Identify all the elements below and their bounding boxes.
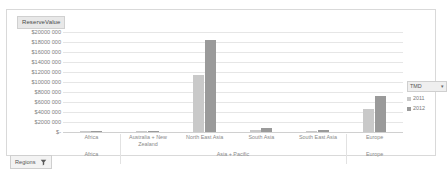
plot-area: [63, 32, 403, 132]
category-group-label: Asia + Pacific: [120, 151, 347, 158]
bar-cluster: [176, 32, 233, 132]
bar[interactable]: [318, 130, 329, 132]
y-axis-tick-label: $10000 000: [31, 79, 61, 85]
legend-item-label: 2012: [413, 105, 425, 112]
bar-cluster: [233, 32, 290, 132]
bar-cluster: [290, 32, 347, 132]
bar[interactable]: [205, 40, 216, 132]
y-axis-tick-label: $6000 000: [35, 99, 61, 105]
category-axis-level1: AfricaAustralia + New ZealandNorth East …: [63, 134, 403, 150]
y-axis-tick-label: $18000 000: [31, 39, 61, 45]
bar-cluster: [346, 32, 403, 132]
bar[interactable]: [363, 109, 374, 132]
y-axis-tick-label: $20000 000: [31, 29, 61, 35]
legend: TMD ▾ 20112012: [407, 81, 447, 112]
value-axis-title: ReserveValue: [17, 16, 65, 29]
legend-item[interactable]: 2011: [407, 95, 447, 102]
bar[interactable]: [136, 131, 147, 132]
chevron-down-icon: ▾: [441, 83, 444, 90]
legend-item[interactable]: 2012: [407, 105, 447, 112]
bar[interactable]: [91, 131, 102, 132]
y-axis-tick-label: $12000 000: [31, 69, 61, 75]
category-group-separator: [346, 134, 347, 164]
filter-funnel-icon[interactable]: [40, 159, 47, 166]
y-axis-tick-label: $4000 000: [35, 109, 61, 115]
legend-items: 20112012: [407, 95, 447, 112]
legend-swatch: [407, 107, 411, 111]
chart-container: ReserveValue $20000 000$18000 000$16000 …: [6, 9, 436, 156]
bar-cluster: [120, 32, 177, 132]
category-label: North East Asia: [176, 134, 233, 141]
legend-item-label: 2011: [413, 95, 425, 102]
axis-baseline: [63, 132, 403, 133]
y-axis-tick-label: $14000 000: [31, 59, 61, 65]
legend-header-label: TMD: [410, 83, 422, 90]
category-group-separator: [120, 134, 121, 164]
legend-swatch: [407, 97, 411, 101]
value-axis: $20000 000$18000 000$16000 000$14000 000…: [13, 32, 61, 132]
bar[interactable]: [193, 75, 204, 132]
category-label: South Asia: [233, 134, 290, 141]
bar[interactable]: [306, 131, 317, 132]
bar[interactable]: [250, 130, 261, 132]
bar[interactable]: [375, 96, 386, 133]
bar[interactable]: [148, 131, 159, 132]
y-axis-tick-label: $-: [56, 129, 61, 135]
bar-cluster: [63, 32, 120, 132]
y-axis-tick-label: $8000 000: [35, 89, 61, 95]
category-label: Africa: [63, 134, 120, 141]
regions-slicer-button[interactable]: Regions: [10, 155, 52, 169]
category-label: South East Asia: [290, 134, 347, 141]
category-axis-level2: AfricaAsia + PacificEurope: [63, 151, 403, 163]
category-group-label: Europe: [346, 151, 403, 158]
category-label: Australia + New Zealand: [120, 134, 177, 147]
bar[interactable]: [261, 128, 272, 133]
category-label: Europe: [346, 134, 403, 141]
legend-header-button[interactable]: TMD ▾: [407, 81, 447, 92]
y-axis-tick-label: $16000 000: [31, 49, 61, 55]
y-axis-tick-label: $2000 000: [35, 119, 61, 125]
category-group-label: Africa: [63, 151, 120, 158]
regions-slicer-label: Regions: [15, 158, 36, 166]
bar[interactable]: [80, 131, 91, 132]
